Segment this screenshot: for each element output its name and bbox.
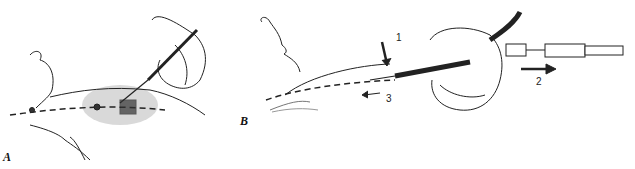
panel-b-drawing (261, 12, 623, 112)
step-label-1: 1 (396, 32, 402, 43)
step-label-2: 2 (536, 76, 542, 87)
panel-label-a: A (3, 150, 11, 165)
panel-label-b: B (240, 114, 248, 129)
step-label-3: 3 (386, 93, 392, 104)
panel-a-drawing (10, 17, 205, 160)
